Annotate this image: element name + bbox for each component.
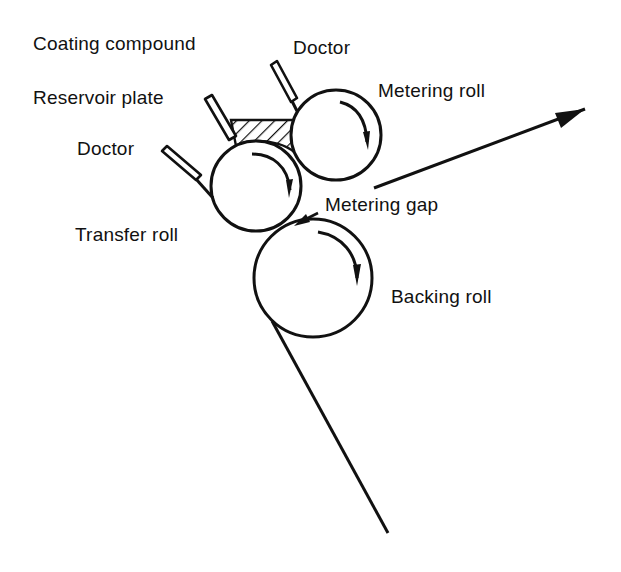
label-metering-gap: Metering gap bbox=[325, 195, 438, 214]
roll-coater-diagram bbox=[0, 0, 621, 572]
label-transfer-roll: Transfer roll bbox=[75, 225, 178, 244]
diagram-canvas: Coating compound Doctor Metering roll Re… bbox=[0, 0, 621, 572]
metering-roll bbox=[291, 90, 381, 180]
label-backing-roll: Backing roll bbox=[391, 287, 492, 306]
doctor-blade-top bbox=[271, 61, 297, 111]
backing-roll bbox=[254, 219, 372, 337]
label-reservoir-plate: Reservoir plate bbox=[33, 88, 164, 107]
label-doctor-top: Doctor bbox=[293, 38, 350, 57]
label-coating-compound: Coating compound bbox=[33, 34, 196, 53]
transfer-roll bbox=[211, 141, 301, 231]
label-doctor-left: Doctor bbox=[77, 139, 134, 158]
reservoir-plate bbox=[205, 95, 236, 140]
doctor-blade-left bbox=[162, 146, 213, 198]
web-direction-arrow-icon bbox=[555, 109, 585, 128]
label-metering-roll: Metering roll bbox=[378, 81, 485, 100]
